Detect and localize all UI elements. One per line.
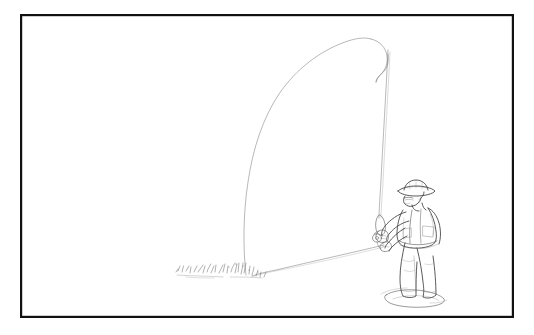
illustration-canvas: Fly fisherman casting Fly line loop Fish… <box>0 0 534 335</box>
fly-fishing-line-drawing <box>0 0 534 335</box>
